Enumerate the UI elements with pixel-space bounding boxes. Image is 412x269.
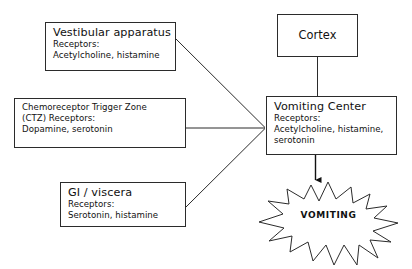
node-vomiting-center-line-4: serotonin [274, 135, 396, 146]
node-vestibular-apparatus: Vestibular apparatus Receptors: Acetylch… [45, 22, 176, 71]
node-chemoreceptor-trigger-zone: Chemoreceptor Trigger Zone (CTZ) Recepto… [14, 98, 186, 148]
node-gi-viscera-title: GI / viscera [68, 186, 185, 199]
node-chemoreceptor-trigger-zone-content: Chemoreceptor Trigger Zone (CTZ) Recepto… [15, 99, 185, 136]
node-gi-viscera-content: GI / viscera Receptors: Serotonin, hista… [61, 183, 185, 221]
node-vomiting-center: Vomiting Center Receptors: Acetylcholine… [266, 96, 397, 155]
node-vomiting-center-line-3: Acetylcholine, histamine, [274, 124, 396, 135]
node-vomiting-center-line-2: Receptors: [274, 113, 396, 124]
outcome-starburst: VOMITING [256, 179, 401, 268]
node-gi-viscera-line-3: Serotonin, histamine [68, 210, 185, 221]
connector-vestibular-to-vomiting-center [176, 39, 265, 128]
node-vestibular-apparatus-line-3: Acetylcholine, histamine [53, 50, 175, 61]
node-vestibular-apparatus-line-2: Receptors: [53, 39, 175, 50]
node-vestibular-apparatus-content: Vestibular apparatus Receptors: Acetylch… [46, 23, 175, 61]
outcome-label: VOMITING [256, 210, 401, 220]
node-vestibular-apparatus-title: Vestibular apparatus [53, 26, 175, 39]
node-chemoreceptor-trigger-zone-line-3: Dopamine, serotonin [22, 124, 185, 135]
node-gi-viscera: GI / viscera Receptors: Serotonin, hista… [60, 182, 186, 227]
connector-gi-to-vomiting-center [186, 129, 265, 208]
node-chemoreceptor-trigger-zone-title: Chemoreceptor Trigger Zone [22, 102, 185, 113]
node-cortex-content: Cortex [278, 15, 357, 56]
node-chemoreceptor-trigger-zone-line-2: (CTZ) Receptors: [22, 113, 185, 124]
node-vomiting-center-content: Vomiting Center Receptors: Acetylcholine… [267, 97, 396, 147]
node-cortex-title: Cortex [298, 29, 336, 42]
node-gi-viscera-line-2: Receptors: [68, 199, 185, 210]
starburst-shape [256, 179, 401, 268]
node-cortex: Cortex [277, 14, 358, 57]
node-vomiting-center-title: Vomiting Center [274, 100, 396, 113]
vomiting-pathway-diagram: Vestibular apparatus Receptors: Acetylch… [0, 0, 412, 269]
